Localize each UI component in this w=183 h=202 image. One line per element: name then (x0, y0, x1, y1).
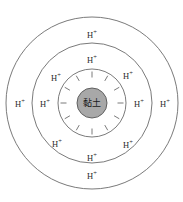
ion-label-hydrogen: H+ (87, 31, 97, 40)
negative-charge-mark (76, 125, 79, 130)
negative-charge-mark (105, 125, 108, 130)
clay-ion-diagram: H+H+H+H+H+H+H+H+H+H+H+H+ 黏土 (0, 0, 183, 202)
ion-charge: + (140, 97, 144, 104)
ion-charge: + (93, 151, 97, 158)
ion-charge: + (129, 69, 133, 76)
ion-label-hydrogen: H+ (87, 56, 97, 65)
ion-charge: + (46, 97, 50, 104)
ion-label-hydrogen: H+ (134, 100, 144, 109)
ion-charge: + (93, 169, 97, 176)
negative-charge-mark (114, 116, 119, 119)
negative-charge-mark (65, 87, 70, 90)
ion-label-hydrogen: H+ (87, 172, 97, 181)
negative-charge-mark (76, 76, 79, 81)
ion-charge: + (57, 71, 61, 78)
negative-charge-mark (114, 87, 119, 90)
ion-label-hydrogen: H+ (160, 100, 170, 109)
ion-charge: + (58, 137, 62, 144)
clay-particle-label: 黏土 (83, 99, 101, 108)
ion-charge: + (93, 28, 97, 35)
ion-charge: + (166, 97, 170, 104)
ion-label-hydrogen: H+ (15, 100, 25, 109)
negative-charge-mark (65, 116, 70, 119)
ion-charge: + (93, 53, 97, 60)
ion-label-hydrogen: H+ (51, 74, 61, 83)
ion-label-hydrogen: H+ (123, 72, 133, 81)
ion-label-hydrogen: H+ (40, 100, 50, 109)
ion-label-hydrogen: H+ (123, 141, 133, 150)
negative-charge-mark (105, 76, 108, 81)
ion-charge: + (129, 138, 133, 145)
ion-label-hydrogen: H+ (52, 140, 62, 149)
ion-charge: + (21, 97, 25, 104)
ion-label-hydrogen: H+ (87, 154, 97, 163)
